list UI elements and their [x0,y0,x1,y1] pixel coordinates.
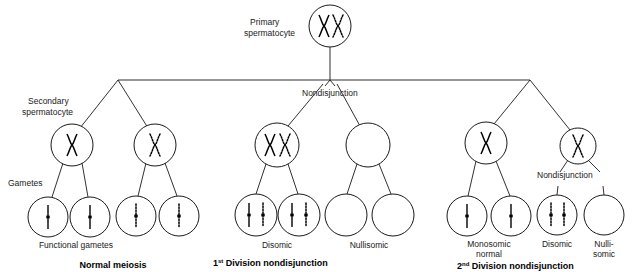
gamete-nullisomic-2 [372,194,414,236]
second-division-rest: Division nondisjunction [469,261,574,271]
gamete-normal-solid-2 [70,197,110,237]
monosomic-label-line1: Monosomic [467,239,511,249]
functional-gametes-label: Functional gametes [39,240,113,250]
gamete-normal-dotted-1 [116,196,156,236]
svg-text:1st Division nondisjunction: 1st Division nondisjunction [213,258,328,268]
edge-sec3a-to-g10 [496,161,510,196]
gamete-nullisomic-2nd [584,195,624,235]
edge-sec1b-to-g4 [165,163,177,196]
svg-text:2nd Division nondisjunction: 2nd Division nondisjunction [457,261,574,271]
edge-sec2a-to-g5 [256,164,266,194]
gamete-disomic-2 [278,194,320,236]
secondary-spermatocyte-nondisjunction-2nd [560,128,596,164]
gametes-label: Gametes [8,178,43,188]
edge-center-v-marker [325,80,335,86]
edge-sec3a-to-g9 [468,161,476,196]
edge-sec2b-to-g7 [347,164,357,194]
edge-sec1a-to-g2 [82,163,88,197]
secondary-spermatocyte-label-line2: spermatocyte [22,107,73,117]
gamete-normal-dotted-2 [159,196,199,236]
nullisomic-label-line1: Nulli- [594,239,614,249]
monosomic-label-line2: normal [476,249,502,259]
edge-nd2-to-g11 [557,186,558,195]
gamete-monosomic-normal-2 [491,196,531,236]
gamete-monosomic-normal-1 [447,196,487,236]
secondary-spermatocyte-disomic [255,123,299,167]
section-title-normal-meiosis: Normal meiosis [79,260,146,270]
gamete-disomic-1 [235,194,277,236]
disomic-label-2: Disomic [542,239,573,249]
first-division-rest: Division nondisjunction [223,258,328,268]
secondary-spermatocyte-normal-2nd [465,122,507,164]
nullisomic-label-1: Nullisomic [350,240,389,250]
gamete-normal-solid-1 [28,197,68,237]
gamete-disomic-2nd [537,195,577,235]
edge-sec2a-to-g6 [288,164,298,194]
diagram-canvas: Primary spermatocyte Nondisjunction Seco… [0,0,638,272]
edge-sec1b-to-g3 [138,163,146,196]
gamete-nullisomic-1 [325,194,367,236]
meiosis-nondisjunction-diagram: Primary spermatocyte Nondisjunction Seco… [0,0,638,272]
primary-spermatocyte-label-line2: spermatocyte [244,28,295,38]
edge-sec1a-to-g1 [52,163,63,197]
section-title-second-division: 2nd Division nondisjunction [457,261,574,271]
disomic-label-1: Disomic [262,240,293,250]
primary-spermatocyte-cell [309,5,351,47]
connector-lines [52,47,604,197]
section-title-first-division: 1st Division nondisjunction [213,258,328,268]
primary-spermatocyte-label-line1: Primary [250,17,280,27]
nondisjunction-second-label: Nondisjunction [537,170,593,180]
edge-sec2b-to-g8 [379,164,391,194]
edge-bar-to-sec3b [530,80,570,130]
secondary-spermatocyte-nullisomic [346,123,390,167]
edge-bar-to-sec3a [494,80,530,124]
nondisjunction-top-label: Nondisjunction [302,88,358,98]
edge-bar-to-sec1a [80,80,118,128]
secondary-spermatocyte-normal-dotted [134,124,176,166]
edge-bar-to-sec1b [118,80,148,128]
edge-nd2-to-g12 [603,186,604,195]
nullisomic-label-line2: somic [593,249,616,259]
secondary-spermatocyte-label-line1: Secondary [28,96,69,106]
secondary-spermatocyte-normal-solid [51,124,93,166]
